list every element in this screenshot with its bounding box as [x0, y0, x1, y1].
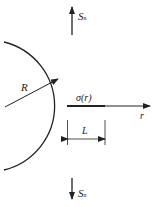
stress-bottom-label: Sn [78, 188, 87, 199]
crack-length-label: L [82, 126, 88, 136]
diagram-canvas [0, 0, 155, 207]
radius-label: R [21, 82, 28, 93]
r-axis-label: r [140, 111, 144, 121]
radius-arrow [5, 79, 58, 107]
stress-top-label: Sn [78, 11, 87, 22]
stress-field-label: σ(r) [76, 93, 91, 103]
hole-boundary-arc [4, 42, 55, 170]
